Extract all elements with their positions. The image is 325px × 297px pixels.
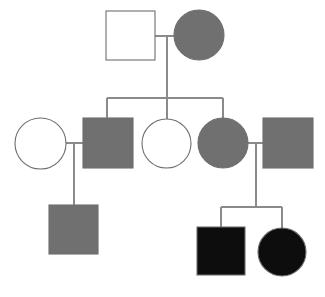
pedigree-individual-iii-3[interactable] [258,228,306,276]
pedigree-individual-ii-1[interactable] [15,118,66,169]
pedigree-individual-i-1[interactable] [106,11,155,60]
individual-layer [15,10,313,276]
pedigree-individual-ii-2[interactable] [83,118,133,168]
pedigree-individual-iii-2[interactable] [197,227,245,275]
pedigree-individual-iii-1[interactable] [49,205,98,254]
pedigree-chart [0,0,325,297]
pedigree-individual-ii-4[interactable] [198,118,248,168]
pedigree-individual-i-2[interactable] [174,10,224,60]
pedigree-svg [0,0,325,297]
pedigree-individual-ii-3[interactable] [142,119,191,168]
pedigree-individual-ii-5[interactable] [263,118,313,168]
